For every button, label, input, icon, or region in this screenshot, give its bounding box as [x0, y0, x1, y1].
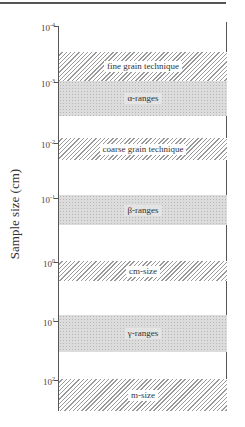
y-tick-label: 10-2 — [41, 137, 55, 150]
top-rule — [0, 2, 226, 4]
range-band-label: coarse grain technique — [100, 144, 187, 155]
range-band-label: α-ranges — [124, 93, 161, 104]
range-band-label: γ-ranges — [125, 328, 161, 339]
range-band: β-ranges — [59, 195, 227, 225]
y-tick-label: 10-1 — [41, 192, 55, 205]
y-tick-label: 10-3 — [41, 76, 55, 89]
range-band: γ-ranges — [59, 315, 227, 352]
range-band: cm-size — [59, 261, 227, 281]
range-band-label: fine grain technique — [104, 61, 182, 72]
range-band: α-ranges — [59, 81, 227, 116]
y-tick-label: 101 — [43, 315, 55, 328]
y-axis-label: Sample size (cm) — [7, 159, 23, 269]
range-band-label: cm-size — [126, 266, 160, 277]
y-tick-label: 100 — [43, 256, 55, 269]
range-band: coarse grain technique — [59, 138, 227, 160]
y-tick-label: 102 — [43, 374, 55, 387]
range-band-label: m-size — [128, 390, 158, 401]
y-tick-label: 10-4 — [41, 20, 55, 33]
range-band: m-size — [59, 379, 227, 411]
range-band: fine grain technique — [59, 52, 227, 81]
range-band-label: β-ranges — [124, 205, 161, 216]
